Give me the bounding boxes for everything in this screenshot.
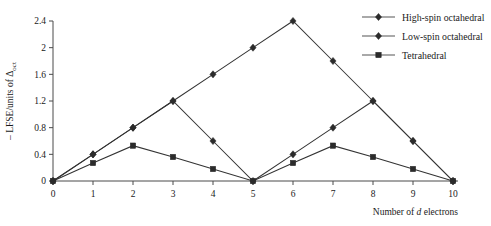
- y-tick-label: 0.8: [34, 123, 46, 133]
- data-point: [250, 44, 256, 51]
- chart-legend: High-spin octahedralLow-spin octahedralT…: [362, 12, 485, 61]
- data-point: [410, 166, 415, 171]
- y-axis-ticks: [49, 21, 53, 181]
- x-tick-label: 4: [211, 189, 216, 199]
- series-2: [50, 17, 456, 184]
- data-point: [90, 151, 96, 158]
- y-axis-title-subscript: oct: [10, 62, 18, 71]
- data-point: [210, 71, 216, 78]
- series-layer: [50, 17, 456, 184]
- y-tick-label: 1.6: [34, 70, 46, 80]
- y-tick-label: 2: [41, 43, 46, 53]
- x-axis-tick-labels: 012345678910: [51, 189, 458, 199]
- x-tick-label: 6: [291, 189, 296, 199]
- legend-marker-diamond: [375, 13, 381, 20]
- y-tick-label: 1.2: [34, 96, 46, 106]
- x-tick-label: 10: [448, 189, 458, 199]
- legend-marker-diamond: [375, 32, 381, 39]
- data-point: [290, 160, 295, 165]
- x-tick-label: 1: [91, 189, 96, 199]
- x-tick-label: 9: [411, 189, 416, 199]
- data-point: [290, 151, 296, 158]
- series-line: [53, 146, 453, 181]
- legend-marker-square: [376, 52, 381, 57]
- y-tick-label: 0.4: [34, 150, 46, 160]
- x-tick-label: 7: [331, 189, 336, 199]
- y-axis-tick-labels: 00.40.81.21.622.4: [34, 16, 46, 186]
- y-tick-label: 0: [41, 176, 46, 186]
- series-1: [50, 97, 456, 184]
- x-tick-label: 0: [51, 189, 56, 199]
- legend-item: High-spin octahedral: [362, 12, 485, 23]
- data-point: [90, 160, 95, 165]
- x-axis-title: Number of d electrons: [373, 207, 459, 217]
- y-tick-label: 2.4: [34, 16, 46, 26]
- data-point: [370, 154, 375, 159]
- y-axis-title: – LFSE/units of Δoct: [5, 62, 18, 141]
- data-point: [450, 178, 455, 183]
- x-tick-label: 2: [131, 189, 136, 199]
- data-point: [330, 143, 335, 148]
- legend-label: High-spin octahedral: [402, 12, 485, 23]
- x-tick-label: 5: [251, 189, 256, 199]
- legend-item: Tetrahedral: [362, 50, 447, 61]
- x-tick-label: 8: [371, 189, 376, 199]
- x-axis-title-post: electrons: [421, 207, 458, 217]
- lfse-chart: 00.40.81.21.622.4 012345678910 – LFSE/un…: [0, 0, 491, 226]
- legend-item: Low-spin octahedral: [362, 31, 483, 42]
- legend-label: Low-spin octahedral: [402, 31, 483, 42]
- data-point: [170, 154, 175, 159]
- data-point: [330, 124, 336, 131]
- x-tick-label: 3: [171, 189, 176, 199]
- data-point: [50, 178, 55, 183]
- data-point: [130, 124, 136, 131]
- x-axis-title-pre: Number of: [373, 207, 417, 217]
- legend-label: Tetrahedral: [402, 50, 447, 61]
- data-point: [210, 166, 215, 171]
- y-axis-title-text: – LFSE/units of Δ: [5, 71, 15, 141]
- data-point: [130, 143, 135, 148]
- svg-text:– LFSE/units of Δoct: – LFSE/units of Δoct: [5, 62, 18, 141]
- data-point: [250, 178, 255, 183]
